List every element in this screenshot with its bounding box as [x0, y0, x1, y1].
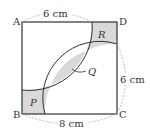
vertex-label-d: D: [119, 16, 127, 27]
dimension-label-top: 6 cm: [43, 8, 68, 19]
region-q-shade: [51, 51, 86, 85]
dimension-label-right: 6 cm: [120, 74, 145, 85]
dimension-label-bottom: 8 cm: [59, 118, 84, 129]
geometry-diagram: A B C D R P Q 6 cm 6 cm 8 cm: [0, 0, 150, 136]
region-label-p: P: [29, 97, 37, 108]
vertex-label-a: A: [12, 16, 21, 27]
region-label-q: Q: [88, 66, 96, 77]
region-label-r: R: [97, 29, 106, 40]
arc-from-c: [43, 41, 117, 114]
vertex-label-c: C: [119, 109, 127, 120]
vertex-label-b: B: [13, 109, 20, 120]
